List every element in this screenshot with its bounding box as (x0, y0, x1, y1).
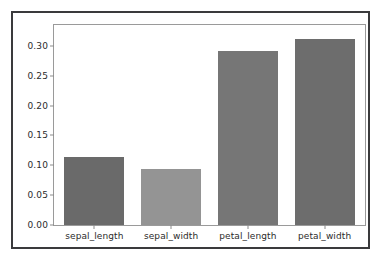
x-tick-label: petal_length (210, 231, 287, 241)
x-tick-mark (324, 225, 325, 229)
plot-area (54, 25, 365, 225)
bar-slot (56, 25, 133, 225)
x-tick-label: sepal_length (56, 231, 133, 241)
y-tick-label: 0.30 (28, 41, 54, 51)
bar-slot (133, 25, 210, 225)
x-tick-mark (247, 225, 248, 229)
matplotlib-figure: 0.000.050.100.150.200.250.30 sepal_lengt… (13, 13, 368, 247)
bar-series (54, 25, 365, 225)
x-tick-mark (94, 225, 95, 229)
bar[interactable] (295, 39, 355, 225)
x-tick-slot: sepal_length (56, 225, 133, 241)
y-tick-label: 0.20 (28, 101, 54, 111)
y-tick-label: 0.10 (28, 160, 54, 170)
y-tick-label: 0.05 (28, 190, 54, 200)
bar[interactable] (64, 157, 124, 225)
bar-slot (286, 25, 363, 225)
chart-axes: 0.000.050.100.150.200.250.30 sepal_lengt… (53, 24, 366, 226)
bar-slot (210, 25, 287, 225)
bar[interactable] (218, 51, 278, 225)
x-tick-label: petal_width (286, 231, 363, 241)
x-tick-slot: petal_length (210, 225, 287, 241)
x-tick-mark (171, 225, 172, 229)
y-tick-label: 0.15 (28, 130, 54, 140)
x-tick-label: sepal_width (133, 231, 210, 241)
y-tick-label: 0.00 (28, 220, 54, 230)
y-tick-label: 0.25 (28, 71, 54, 81)
screenshot-canvas: 0.000.050.100.150.200.250.30 sepal_lengt… (0, 0, 384, 271)
x-axis-ticks: sepal_lengthsepal_widthpetal_lengthpetal… (54, 225, 365, 241)
x-tick-slot: sepal_width (133, 225, 210, 241)
bar[interactable] (141, 169, 201, 225)
x-tick-slot: petal_width (286, 225, 363, 241)
figure-frame: 0.000.050.100.150.200.250.30 sepal_lengt… (11, 11, 370, 249)
